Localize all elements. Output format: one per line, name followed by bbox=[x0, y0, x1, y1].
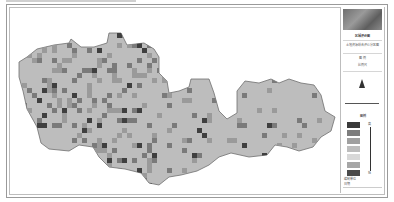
legend-title: 图例 bbox=[341, 114, 384, 118]
high-label: 高 bbox=[368, 122, 371, 126]
legend-swatch bbox=[347, 122, 360, 128]
legend-swatch bbox=[347, 154, 360, 160]
legend-swatch bbox=[347, 138, 360, 144]
footer-org: 编制单位 bbox=[344, 177, 387, 181]
north-arrow-icon bbox=[359, 79, 365, 88]
low-label: 低 bbox=[368, 171, 371, 175]
legend-swatch bbox=[347, 130, 360, 136]
region-map bbox=[9, 7, 336, 193]
footer-date: 日期 bbox=[344, 182, 387, 186]
scale-bar bbox=[345, 103, 379, 104]
top-rule bbox=[6, 0, 136, 2]
map-subtitle: 土地资源综合评价分区图 bbox=[341, 43, 384, 47]
scale-note: 比例尺 bbox=[341, 63, 384, 67]
legend-panel: 区域评价图 土地资源综合评价分区图 图 例 比例尺 图例 高 低 编制单位 日期 bbox=[340, 7, 384, 193]
legend-swatch bbox=[347, 162, 360, 168]
divider bbox=[343, 71, 382, 72]
divider bbox=[343, 40, 382, 41]
location-thumbnail bbox=[343, 9, 382, 30]
gradient-arrow-icon bbox=[370, 127, 371, 171]
map-canvas bbox=[9, 7, 336, 193]
legend-swatch bbox=[347, 170, 360, 176]
legend-swatch bbox=[347, 146, 360, 152]
map-title: 区域评价图 bbox=[341, 34, 384, 38]
section-label: 图 例 bbox=[341, 56, 384, 60]
divider bbox=[343, 53, 382, 54]
footer-bar bbox=[343, 187, 382, 192]
